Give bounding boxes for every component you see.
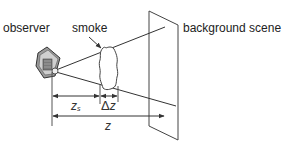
z-label: z	[105, 120, 111, 132]
delta-z-label: Δz	[101, 99, 116, 112]
smoke-label: smoke	[72, 22, 107, 34]
cloud-icon	[99, 47, 117, 90]
camera-icon	[36, 47, 60, 78]
smoke-pointer-arrow	[89, 37, 101, 48]
zs-label: zs	[71, 100, 81, 112]
diagram-canvas: observer smoke background scene zs Δz z	[0, 0, 298, 150]
zs-subscript: s	[77, 105, 81, 112]
background-scene-plane	[149, 11, 178, 140]
delta-var: z	[110, 99, 116, 113]
observer-label: observer	[3, 22, 50, 34]
background-scene-label: background scene	[183, 22, 281, 34]
delta-symbol: Δ	[101, 98, 110, 113]
